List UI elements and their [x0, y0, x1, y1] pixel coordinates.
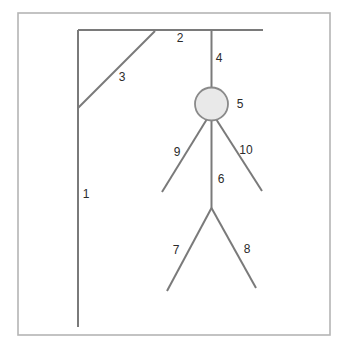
diagram-canvas: 1 2 3 4 5 6 7 8 9 10: [0, 0, 346, 351]
part-label-6: 6: [218, 172, 225, 186]
gallows-diagram: 1 2 3 4 5 6 7 8 9 10: [0, 0, 346, 351]
part-label-3: 3: [119, 70, 126, 84]
part-label-5: 5: [237, 97, 244, 111]
part-label-10: 10: [239, 143, 253, 157]
part-label-2: 2: [177, 31, 184, 45]
left-arm-line: [162, 119, 207, 192]
brace-line: [78, 31, 155, 108]
part-label-9: 9: [174, 145, 181, 159]
part-label-1: 1: [83, 187, 90, 201]
part-label-7: 7: [173, 243, 180, 257]
head-circle: [195, 88, 228, 121]
part-label-4: 4: [216, 51, 223, 65]
part-label-8: 8: [244, 242, 251, 256]
